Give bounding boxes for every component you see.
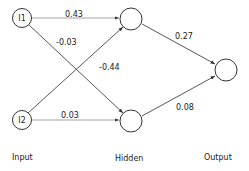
layer-label-hidden: Hidden [115, 154, 143, 163]
node-i1-label: I1 [18, 14, 25, 23]
node-h1 [120, 8, 142, 30]
node-h2 [120, 110, 142, 132]
weight-label-i2-h2: 0.03 [61, 111, 79, 120]
layer-label-input: Input [12, 153, 33, 162]
layer-label-output: Output [204, 153, 232, 162]
weight-label-i2-h1: -0.44 [99, 63, 120, 72]
edge-h1-o1 [142, 24, 215, 64]
node-i2: I2 [13, 111, 32, 130]
node-i1: I1 [13, 9, 32, 28]
weight-label-h1-o1: 0.27 [175, 32, 193, 41]
node-output [215, 59, 237, 81]
weight-label-i1-h2: -0.03 [56, 38, 77, 47]
weight-label-h2-o1: 0.08 [176, 103, 194, 112]
node-i2-label: I2 [18, 116, 25, 125]
neural-network-diagram: 0.43 -0.03 -0.44 0.03 0.27 0.08 I1 I2 In… [0, 0, 249, 171]
weight-label-i1-h1: 0.43 [65, 10, 83, 19]
